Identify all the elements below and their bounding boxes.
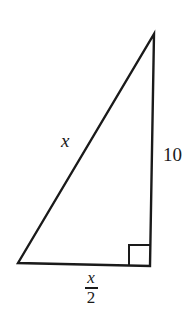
hypotenuse-label: x [61, 131, 69, 150]
right-angle-marker [129, 245, 151, 266]
horizontal-leg-label: x 2 [83, 271, 99, 306]
fraction-denominator: 2 [87, 290, 96, 306]
right-triangle-diagram: x 10 x 2 [0, 0, 187, 336]
vertical-leg-label: 10 [163, 145, 182, 164]
triangle-outline [18, 34, 154, 266]
fraction-numerator: x [87, 271, 95, 285]
